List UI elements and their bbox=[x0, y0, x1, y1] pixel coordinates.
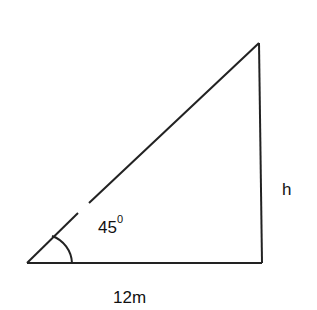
angle-arc bbox=[52, 236, 72, 263]
base-label: 12m bbox=[113, 288, 146, 308]
triangle-figure bbox=[0, 0, 317, 310]
height-label: h bbox=[282, 180, 291, 200]
hypotenuse-upper bbox=[89, 43, 259, 203]
angle-label: 450 bbox=[98, 216, 123, 238]
diagram-canvas: 450 h 12m bbox=[0, 0, 317, 310]
vertical-side bbox=[259, 43, 262, 263]
